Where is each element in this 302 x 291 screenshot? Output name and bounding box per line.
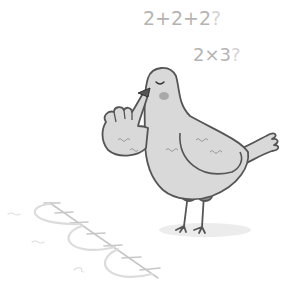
counting-wing	[103, 90, 149, 155]
cheek	[159, 92, 169, 100]
pigeon-drawing	[0, 0, 302, 291]
jump-arc	[35, 204, 80, 224]
number-line	[8, 203, 160, 278]
jump-arc	[105, 249, 152, 277]
illustration-scene: 2+2+2? 2×3?	[0, 0, 302, 291]
ground-shadow	[159, 223, 251, 237]
pigeon-body	[145, 68, 249, 199]
beak	[138, 88, 150, 97]
